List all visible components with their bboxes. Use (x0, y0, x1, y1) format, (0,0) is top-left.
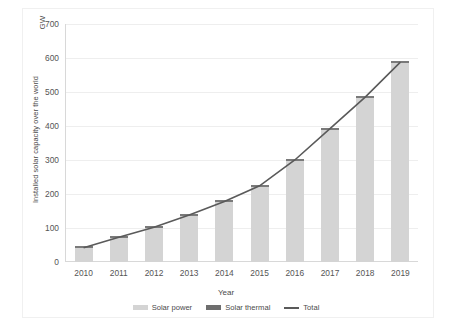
legend-item[interactable]: Solar power (133, 303, 193, 312)
x-tick-label: 2019 (383, 268, 418, 278)
x-tick-label: 2014 (207, 268, 242, 278)
bar-solar-thermal[interactable] (145, 226, 163, 228)
bar-solar-power[interactable] (110, 238, 128, 262)
legend-label: Total (303, 303, 319, 312)
gridline: 0 (66, 262, 418, 263)
bar-solar-thermal[interactable] (215, 200, 233, 202)
y-tick-label: 600 (45, 53, 59, 63)
bar-solar-thermal[interactable] (391, 61, 409, 63)
bar-solar-power[interactable] (391, 63, 409, 262)
bar-slot: 2014 (207, 24, 242, 262)
y-tick-label: 500 (45, 87, 59, 97)
y-tick-label: 200 (45, 189, 59, 199)
bar-solar-power[interactable] (215, 202, 233, 262)
bar-slot: 2016 (277, 24, 312, 262)
x-tick-label: 2011 (101, 268, 136, 278)
y-tick-label: 400 (45, 121, 59, 131)
bar-slot: 2017 (312, 24, 347, 262)
bar-solar-thermal[interactable] (75, 246, 93, 248)
bar-solar-thermal[interactable] (286, 159, 304, 161)
y-tick-label: 700 (45, 19, 59, 29)
bar-slot: 2015 (242, 24, 277, 262)
bar-slot: 2018 (348, 24, 383, 262)
bar-solar-power[interactable] (356, 98, 374, 262)
bar-solar-thermal[interactable] (356, 96, 374, 98)
x-tick-label: 2018 (348, 268, 383, 278)
y-tick-label: 0 (54, 257, 59, 267)
x-tick-label: 2012 (136, 268, 171, 278)
chart-legend: Solar powerSolar thermalTotal (0, 303, 452, 312)
bar-slot: 2019 (383, 24, 418, 262)
bar-solar-power[interactable] (286, 161, 304, 262)
y-axis-title: Installed solar capacity over the world (31, 35, 40, 245)
x-tick-label: 2010 (66, 268, 101, 278)
bar-solar-thermal[interactable] (110, 236, 128, 238)
legend-label: Solar thermal (225, 303, 270, 312)
legend-label: Solar power (152, 303, 193, 312)
bar-solar-thermal[interactable] (321, 128, 339, 130)
x-axis-title: Year (0, 288, 452, 297)
bar-solar-power[interactable] (251, 187, 269, 262)
swatch-solar-power-icon (133, 305, 148, 310)
bar-slot: 2010 (66, 24, 101, 262)
bar-solar-power[interactable] (145, 228, 163, 262)
bar-slot: 2012 (136, 24, 171, 262)
bar-solar-power[interactable] (75, 248, 93, 262)
swatch-total-line-icon (284, 307, 299, 309)
x-tick-label: 2015 (242, 268, 277, 278)
legend-item[interactable]: Solar thermal (206, 303, 270, 312)
bar-solar-power[interactable] (321, 130, 339, 262)
bar-solar-thermal[interactable] (251, 185, 269, 187)
x-tick-label: 2016 (277, 268, 312, 278)
y-tick-label: 100 (45, 223, 59, 233)
bar-solar-power[interactable] (180, 216, 198, 262)
y-tick-label: 300 (45, 155, 59, 165)
bar-solar-thermal[interactable] (180, 214, 198, 216)
swatch-solar-thermal-icon (206, 305, 221, 310)
x-tick-label: 2013 (172, 268, 207, 278)
bar-slot: 2013 (172, 24, 207, 262)
bar-slot: 2011 (101, 24, 136, 262)
plot-area: 0100200300400500600700 20102011201220132… (66, 24, 418, 262)
legend-item[interactable]: Total (284, 303, 319, 312)
x-tick-label: 2017 (312, 268, 347, 278)
